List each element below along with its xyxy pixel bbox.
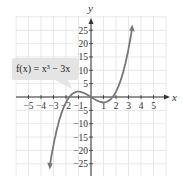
x-tick-label: −5: [23, 101, 33, 111]
x-tick-label: −4: [36, 101, 46, 111]
y-tick-label: 25: [79, 26, 89, 36]
y-tick-label: 5: [83, 79, 88, 89]
y-tick-label: −5: [78, 106, 88, 116]
x-tick-label: 4: [139, 101, 144, 111]
y-axis-arrow-icon: [89, 18, 94, 24]
y-tick-label: −10: [73, 119, 88, 129]
callout-pointer: [55, 80, 72, 89]
y-tick-label: −20: [73, 146, 88, 156]
y-tick-label: −25: [73, 159, 88, 169]
x-tick-label: −3: [48, 101, 58, 111]
x-tick-label: 5: [151, 101, 156, 111]
curve-arrow-down-icon: [47, 163, 53, 170]
x-axis-arrow-icon: [164, 95, 170, 100]
x-tick-label: 2: [114, 101, 119, 111]
y-tick-label: 10: [79, 66, 89, 76]
x-axis-label: x: [171, 91, 177, 103]
function-label-callout: f(x) = x³ − 3x: [12, 58, 78, 80]
curve-arrow-up-icon: [129, 24, 135, 31]
y-axis-label: y: [87, 2, 93, 14]
x-tick-label: 3: [126, 101, 131, 111]
y-tick-label: −15: [73, 133, 88, 143]
function-graph: xy−5−4−3−2−112345−25−20−15−10−5510152025: [0, 0, 183, 187]
y-tick-label: 15: [79, 52, 89, 62]
y-tick-label: 20: [79, 39, 89, 49]
